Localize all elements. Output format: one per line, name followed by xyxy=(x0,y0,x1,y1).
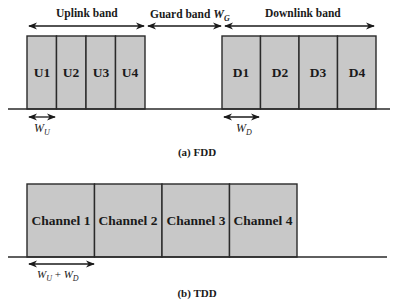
guard-band-symbol: WG xyxy=(213,7,229,21)
fdd-caption: (a) FDD xyxy=(178,146,216,158)
plus-sign: + xyxy=(52,268,64,280)
wd-sub: D xyxy=(246,128,252,137)
downlink-channel-label-3: D3 xyxy=(310,65,327,81)
wu-plus-wd-label: WU + WD xyxy=(37,268,79,283)
wd-symbol: W xyxy=(236,121,246,135)
wd-symbol: W xyxy=(64,268,73,280)
uplink-channel-label-3: U3 xyxy=(93,65,110,81)
wd-sub: D xyxy=(73,274,79,283)
guard-band-text: Guard band xyxy=(150,8,210,20)
wu-symbol: W xyxy=(37,268,46,280)
uplink-band-label: Uplink band xyxy=(56,7,118,19)
wd-label: WD xyxy=(236,121,252,137)
tdd-caption: (b) TDD xyxy=(177,287,216,299)
downlink-channel-label-2: D2 xyxy=(272,65,289,81)
downlink-band-label: Downlink band xyxy=(265,7,341,19)
wu-symbol: W xyxy=(34,121,44,135)
tdd-channel-label-3: Channel 3 xyxy=(167,213,226,229)
tdd-channel-label-4: Channel 4 xyxy=(234,213,293,229)
uplink-channel-label-1: U1 xyxy=(34,65,51,81)
uplink-channel-label-4: U4 xyxy=(122,65,139,81)
guard-symbol-w: W xyxy=(213,7,224,21)
wu-sub: U xyxy=(44,128,50,137)
tdd-channel-label-1: Channel 1 xyxy=(32,213,91,229)
guard-band-label: Guard band WG xyxy=(150,7,230,23)
downlink-channel-label-4: D4 xyxy=(349,65,366,81)
downlink-channel-label-1: D1 xyxy=(233,65,250,81)
uplink-channel-label-2: U2 xyxy=(63,65,80,81)
wu-label: WU xyxy=(34,121,50,137)
tdd-channel-label-2: Channel 2 xyxy=(99,213,158,229)
guard-symbol-sub: G xyxy=(224,14,230,23)
